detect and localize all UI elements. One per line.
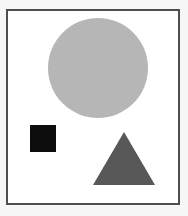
triangle-shape [93, 132, 155, 185]
circle-shape [48, 18, 148, 118]
shape-layer [8, 11, 178, 203]
figure-frame [6, 9, 180, 205]
square-shape [30, 125, 56, 152]
triangle-icon [93, 132, 155, 185]
triangle-polygon [93, 132, 155, 185]
figure-canvas [0, 0, 188, 216]
